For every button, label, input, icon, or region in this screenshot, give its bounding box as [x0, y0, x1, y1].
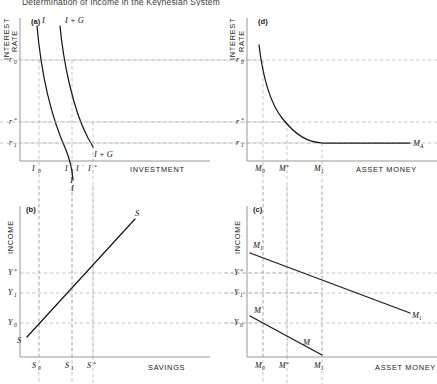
- xtick-a-3-base: I: [87, 164, 91, 173]
- ytick-a-1-base: r: [9, 117, 13, 126]
- panel-b-xlabel: SAVINGS: [148, 363, 185, 372]
- ytick-c-0-sub: *: [240, 268, 243, 274]
- line-label-M1-end-sub: 1: [419, 315, 422, 321]
- panel-a-xtick-I1: I 1: [64, 164, 74, 174]
- ytick-a-2-base: r: [9, 138, 13, 147]
- curve-investment-a: [37, 26, 73, 180]
- panel-d-xlabel: ASSET MONEY: [356, 165, 417, 174]
- curve-label-S-start: S: [17, 336, 22, 345]
- curve-label-IG-top: I + G: [64, 16, 84, 25]
- line-M-c: [250, 316, 322, 355]
- line-M1-c: [250, 253, 410, 313]
- xtick-c-0-sub: 0: [262, 365, 265, 371]
- xtick-a-1-sub: 1: [71, 168, 74, 174]
- line-label-M-end: M: [302, 338, 311, 347]
- ytick-a-0-base: r: [9, 55, 13, 64]
- panel-d-ylabel-1: INTEREST: [228, 18, 237, 60]
- curve-investment-plus-g-a: [60, 26, 93, 147]
- panel-a-tag: (a): [31, 17, 41, 26]
- xtick-b-1-base: S: [65, 361, 69, 370]
- xtick-a-1-base: I: [64, 164, 68, 173]
- xtick-a-2-base: I: [75, 164, 79, 173]
- panel-a-axes: [20, 18, 210, 161]
- panel-b-tag: (b): [26, 205, 36, 214]
- figure-canvas: Determination of Income in the Keynesian…: [0, 0, 437, 384]
- panel-c-xlabel: ASSET MONEY: [375, 363, 436, 372]
- panel-c: (c) INCOME ASSET MONEY M 1 M 1 M M Y * Y…: [225, 186, 437, 372]
- curve-savings-b: [27, 219, 135, 337]
- panel-a: (a) INTEREST RATE INVESTMENT I I + G I +…: [2, 16, 437, 384]
- panel-c-ylabel: INCOME: [233, 220, 242, 254]
- panel-b-ylabel: INCOME: [6, 220, 15, 254]
- xtick-b-2-base: S: [87, 361, 91, 370]
- panel-a-ytick-rstar: r *: [9, 117, 17, 126]
- panel-b-xtick-S1: S 1: [65, 361, 74, 371]
- xtick-b-2-sub: *: [93, 361, 96, 367]
- panel-c-axes: [247, 206, 437, 357]
- line-label-M1-start: M 1: [252, 241, 263, 251]
- line-label-M-start: M: [253, 306, 262, 315]
- xtick-d-2-sub: 1: [321, 168, 324, 174]
- panel-b-xtick-Sstar: S *: [87, 361, 96, 370]
- xtick-c-1-sub: *: [286, 361, 289, 367]
- panel-d-tag: (d): [258, 17, 268, 26]
- panel-d-xtick-M0: M 0: [254, 164, 265, 174]
- ytick-d-0-sub: 0: [241, 59, 244, 65]
- curve-label-S-end: S: [135, 209, 140, 218]
- curve-label-IG-bottom: I + G: [93, 150, 113, 159]
- ytick-d-2-sub: 1: [241, 142, 244, 148]
- xtick-b-1-sub: 1: [71, 365, 74, 371]
- xtick-d-1-sub: *: [286, 164, 289, 170]
- panel-c-tag: (c): [253, 205, 263, 214]
- panel-c-xtick-M1: M 1: [313, 361, 324, 371]
- ytick-d-2-base: r: [236, 138, 240, 147]
- xtick-a-0-sub: 0: [38, 168, 41, 174]
- xtick-a-3-sub: *: [94, 164, 97, 170]
- xtick-b-0-base: S: [32, 361, 36, 370]
- curve-label-MA: M A: [412, 139, 424, 149]
- panel-a-chart: (a) INTEREST RATE INVESTMENT I I + G I +…: [0, 0, 437, 384]
- xtick-d-0-sub: 0: [262, 168, 265, 174]
- panel-a-xtick-I0: I 0: [31, 164, 41, 174]
- panel-d-axes: [247, 18, 437, 161]
- ytick-b-1-sub: 1: [14, 292, 17, 298]
- panel-b: (b) INCOME SAVINGS S S I Y * Y 1 Y 0 S 0: [6, 184, 437, 372]
- xtick-c-2-sub: 1: [321, 365, 324, 371]
- ytick-c-1-sub: 1: [240, 292, 243, 298]
- xtick-a-2-sub: ': [82, 164, 84, 170]
- ytick-b-0-sub: *: [14, 268, 17, 274]
- ytick-d-0-base: r: [236, 55, 240, 64]
- panel-d-ylabel-2: RATE: [237, 30, 246, 52]
- panel-d: (d) INTEREST RATE ASSET MONEY M A r 0 r …: [0, 17, 437, 384]
- panel-a-xtick-Iprime: I ': [75, 164, 84, 173]
- panel-a-xlabel: INVESTMENT: [130, 165, 185, 174]
- panel-b-xtick-S0: S 0: [32, 361, 41, 371]
- panel-a-ylabel-2: RATE: [10, 30, 19, 52]
- panel-a-xtick-Istar: I *: [87, 164, 97, 173]
- line-label-M1-end: M 1: [411, 311, 422, 321]
- panel-d-xtick-M1: M 1: [313, 164, 324, 174]
- panel-b-ytick-Y0: Y 0: [8, 318, 17, 328]
- line-label-M1-start-sub: 1: [260, 245, 263, 251]
- panel-d-ytick-rstar: r *: [236, 117, 244, 126]
- ytick-d-1-sub: *: [241, 117, 244, 123]
- curve-label-MA-sub: A: [419, 143, 424, 149]
- xtick-b-0-sub: 0: [38, 365, 41, 371]
- panel-b-top-marker: I: [70, 184, 75, 193]
- panel-b-axes: [20, 206, 210, 357]
- ytick-d-1-base: r: [236, 117, 240, 126]
- panel-b-ytick-Ystar: Y *: [8, 268, 17, 277]
- ytick-b-2-sub: 0: [14, 322, 17, 328]
- curve-label-I-top: I: [41, 16, 46, 25]
- panel-c-ytick-Ystar: Y *: [234, 268, 243, 277]
- ytick-c-2-sub: 0: [240, 322, 243, 328]
- panel-b-ytick-Y1: Y 1: [8, 288, 17, 298]
- xtick-a-0-base: I: [31, 164, 35, 173]
